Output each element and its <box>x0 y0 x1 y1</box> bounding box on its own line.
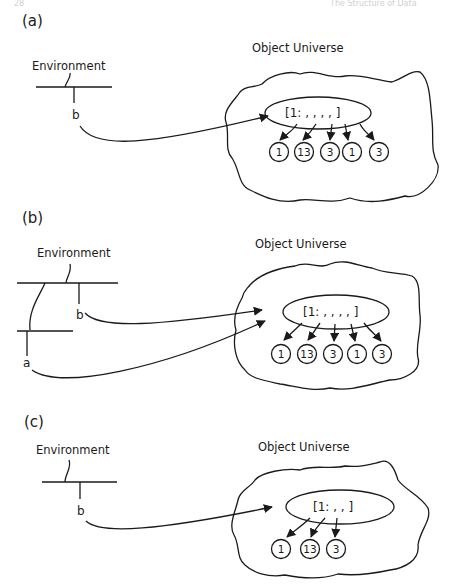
object-universe-cloud <box>225 72 438 202</box>
object-universe-cloud <box>234 262 420 390</box>
element-arrow <box>330 124 332 140</box>
object-universe-cloud <box>232 461 429 578</box>
environment-link <box>30 283 45 330</box>
panel-label: (b) <box>22 209 43 227</box>
element-arrow <box>360 124 374 140</box>
element-arrow <box>308 323 320 340</box>
environment-pointer <box>65 460 70 482</box>
element-arrow <box>287 518 310 537</box>
element-circle: 3 <box>324 345 343 364</box>
panel-c: (c) Environment b Object Universe [1: , … <box>24 413 429 578</box>
variable-b: b <box>76 308 84 322</box>
element-circle: 13 <box>301 540 320 559</box>
variable-b: b <box>77 504 85 518</box>
element-circle: 13 <box>295 143 314 162</box>
element-arrow <box>311 518 325 537</box>
svg-text:3: 3 <box>327 146 334 158</box>
svg-text:3: 3 <box>379 348 386 360</box>
svg-text:3: 3 <box>333 543 340 555</box>
svg-text:3: 3 <box>330 348 337 360</box>
page-number: 28 <box>14 0 24 8</box>
running-header: The Structure of Data <box>329 0 417 8</box>
element-circle: 1 <box>270 143 289 162</box>
element-circle: 3 <box>370 143 389 162</box>
element-arrow <box>364 323 381 341</box>
element-circle: 1 <box>272 540 291 559</box>
panel-a: (a) Environment b Object Universe [1: , … <box>22 12 438 202</box>
array-literal: [1: , , ] <box>313 500 353 514</box>
panel-b: (b) Environment b a Object Universe [1: … <box>17 209 420 389</box>
reference-arrow-b <box>86 507 272 529</box>
object-universe-label: Object Universe <box>255 237 347 251</box>
array-literal: [1: , , , , ] <box>285 106 340 120</box>
svg-text:13: 13 <box>300 348 313 360</box>
element-circle: 1 <box>348 345 367 364</box>
array-literal: [1: , , , , ] <box>303 305 358 319</box>
element-arrow <box>351 324 355 341</box>
svg-text:1: 1 <box>278 348 285 360</box>
svg-text:3: 3 <box>376 146 383 158</box>
variable-b: b <box>72 108 80 122</box>
object-universe-label: Object Universe <box>258 440 350 454</box>
element-circle: 13 <box>298 345 317 364</box>
svg-text:1: 1 <box>349 146 356 158</box>
svg-text:1: 1 <box>278 543 285 555</box>
panel-label: (a) <box>22 12 43 30</box>
element-arrow <box>284 323 302 340</box>
reference-arrow-a <box>32 321 265 378</box>
environment-label: Environment <box>32 59 106 73</box>
svg-text:13: 13 <box>303 543 316 555</box>
element-circle: 3 <box>321 143 340 162</box>
environment-label: Environment <box>36 443 110 457</box>
element-circle: 1 <box>272 345 291 364</box>
object-universe-label: Object Universe <box>252 41 344 55</box>
element-arrow <box>335 518 337 537</box>
panel-label: (c) <box>24 413 44 431</box>
environment-pointer <box>66 264 70 283</box>
variable-a: a <box>23 356 30 370</box>
svg-text:13: 13 <box>297 146 310 158</box>
element-circle: 3 <box>373 345 392 364</box>
svg-text:1: 1 <box>354 348 361 360</box>
environment-pointer <box>65 73 70 87</box>
element-arrow <box>303 124 316 140</box>
svg-text:1: 1 <box>276 146 283 158</box>
element-circle: 1 <box>343 143 362 162</box>
reference-arrow-b <box>80 116 268 141</box>
element-arrow <box>334 324 335 341</box>
environment-label: Environment <box>37 246 111 260</box>
element-circle: 3 <box>327 540 346 559</box>
